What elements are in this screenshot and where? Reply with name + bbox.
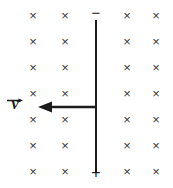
field-into-page-mark: × [29, 113, 37, 126]
field-into-page-mark: × [61, 139, 69, 152]
field-into-page-mark: × [123, 35, 131, 48]
field-into-page-mark: × [29, 35, 37, 48]
field-into-page-mark: × [152, 61, 160, 74]
physics-diagram-canvas: ×××××××××××××××××××××××××××× − + v [0, 0, 173, 188]
field-into-page-mark: × [123, 113, 131, 126]
field-into-page-mark: × [123, 9, 131, 22]
field-into-page-mark: × [61, 61, 69, 74]
field-into-page-mark: × [123, 139, 131, 152]
field-into-page-mark: × [152, 87, 160, 100]
vector-arrow-overbar-icon [6, 90, 24, 97]
field-into-page-mark: × [29, 165, 37, 178]
field-into-page-mark: × [29, 61, 37, 74]
negative-polarity-label: − [92, 5, 101, 20]
field-into-page-mark: × [29, 9, 37, 22]
field-into-page-mark: × [61, 165, 69, 178]
field-into-page-mark: × [152, 35, 160, 48]
field-into-page-mark: × [152, 165, 160, 178]
field-into-page-mark: × [123, 61, 131, 74]
field-into-page-mark: × [123, 165, 131, 178]
field-into-page-mark: × [152, 113, 160, 126]
field-into-page-mark: × [29, 139, 37, 152]
field-into-page-mark: × [61, 9, 69, 22]
field-into-page-mark: × [123, 87, 131, 100]
field-into-page-mark: × [152, 139, 160, 152]
field-into-page-mark: × [152, 9, 160, 22]
field-into-page-mark: × [29, 87, 37, 100]
positive-polarity-label: + [91, 165, 100, 181]
conducting-rod [95, 20, 97, 172]
field-into-page-mark: × [61, 35, 69, 48]
velocity-vector-label: v [6, 90, 24, 111]
velocity-arrow-icon [38, 99, 96, 115]
field-into-page-mark: × [61, 87, 69, 100]
